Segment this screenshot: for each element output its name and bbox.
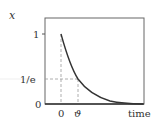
y-tick-label-inv-e: 1/e (20, 74, 36, 85)
x-tick-label-zero: 0 (58, 108, 64, 119)
x-axis-label: time (128, 108, 151, 119)
y-axis-label: x (9, 9, 16, 22)
decay-curve (61, 34, 143, 104)
y-tick-label-zero: 0 (35, 99, 41, 110)
decay-chart: x 1 1/e 0 0 ϑ time (0, 0, 161, 126)
plot-frame (45, 18, 144, 104)
y-tick-label-one: 1 (33, 29, 39, 40)
x-tick-label-theta: ϑ (74, 108, 81, 119)
